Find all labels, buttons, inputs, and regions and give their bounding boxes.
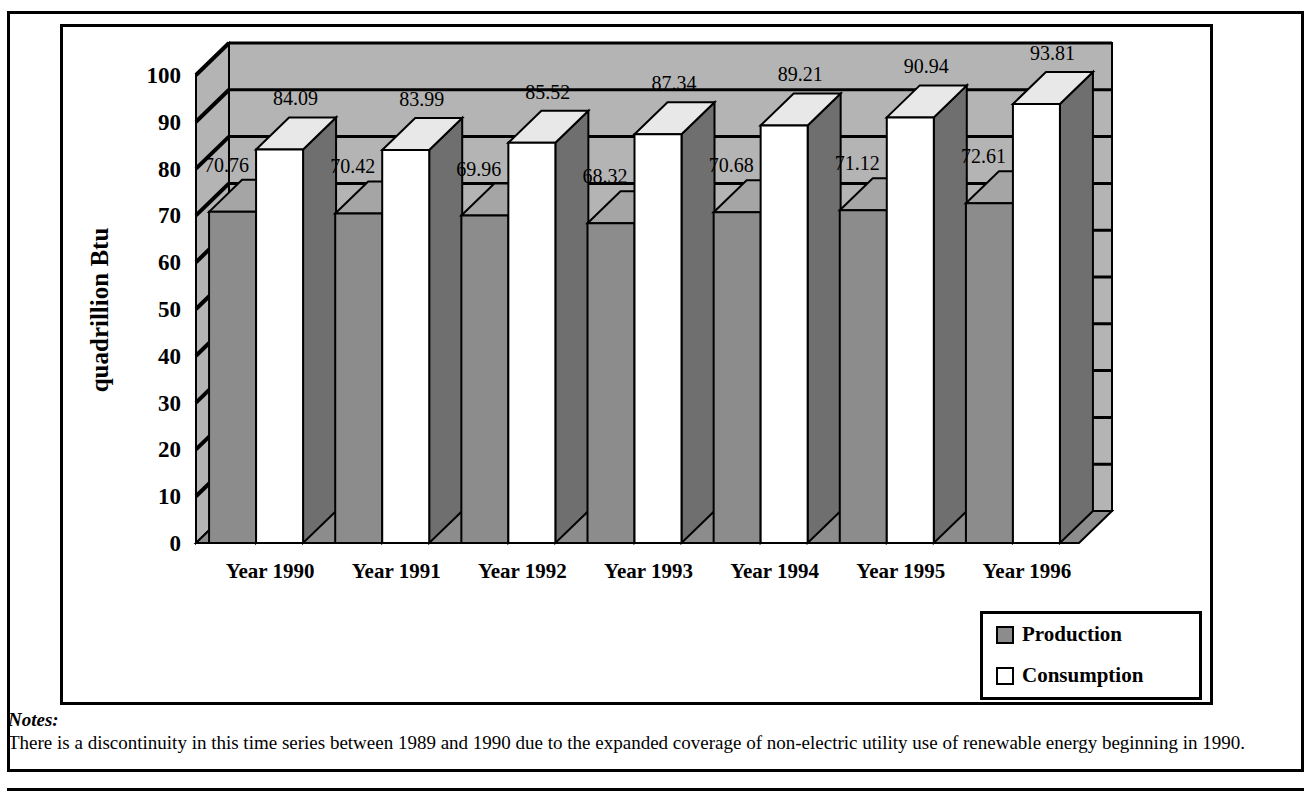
notes-title: Notes: — [8, 709, 1304, 731]
page-root: 0102030405060708090100quadrillion Btu70.… — [0, 0, 1312, 799]
chart-legend: Production Consumption — [980, 611, 1202, 700]
legend-label-production: Production — [1022, 622, 1122, 647]
legend-item-consumption[interactable]: Consumption — [983, 655, 1199, 696]
legend-swatch-consumption — [996, 667, 1014, 685]
chart-frame — [60, 24, 1213, 705]
notes-block: Notes: There is a discontinuity in this … — [8, 709, 1304, 789]
legend-item-production[interactable]: Production — [983, 614, 1199, 655]
notes-body: There is a discontinuity in this time se… — [8, 731, 1298, 755]
bottom-rule — [7, 788, 1304, 791]
legend-swatch-production — [996, 626, 1014, 644]
legend-label-consumption: Consumption — [1022, 663, 1143, 688]
